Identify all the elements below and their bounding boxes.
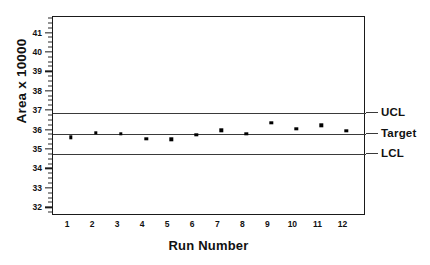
y-axis-tick-label: 33 bbox=[16, 183, 42, 193]
limit-label-ucl: UCL bbox=[381, 106, 405, 118]
x-axis-tick-label: 4 bbox=[130, 219, 154, 229]
y-axis-tick-mark bbox=[45, 129, 52, 130]
y-axis-tick-label: 32 bbox=[16, 202, 42, 212]
y-axis-tick-mark bbox=[45, 110, 52, 111]
data-point bbox=[144, 137, 147, 140]
data-point bbox=[220, 128, 223, 131]
y-axis-tick-label: 35 bbox=[16, 144, 42, 154]
data-point bbox=[295, 127, 298, 130]
limit-line-lcl bbox=[53, 154, 366, 155]
data-point bbox=[119, 132, 122, 135]
y-axis-tick-mark bbox=[45, 71, 52, 72]
x-axis-tick-label: 8 bbox=[230, 219, 254, 229]
x-axis-tick-label: 5 bbox=[155, 219, 179, 229]
data-point bbox=[320, 123, 323, 126]
limit-label-target: Target bbox=[381, 127, 417, 139]
y-axis-tick-label: 39 bbox=[16, 66, 42, 76]
limit-stub-ucl bbox=[366, 112, 378, 113]
data-point bbox=[69, 135, 72, 138]
y-axis-tick-mark bbox=[45, 51, 52, 52]
x-axis-tick-label: 9 bbox=[255, 219, 279, 229]
x-axis-tick-label: 1 bbox=[55, 219, 79, 229]
limit-line-ucl bbox=[53, 113, 366, 114]
y-axis-tick-label: 41 bbox=[16, 28, 42, 38]
y-axis-tick-mark bbox=[45, 168, 52, 169]
y-axis-tick-label: 38 bbox=[16, 86, 42, 96]
y-axis-tick-label: 34 bbox=[16, 163, 42, 173]
limit-label-lcl: LCL bbox=[381, 147, 404, 159]
y-axis-tick-mark bbox=[45, 32, 52, 33]
x-axis-tick-label: 6 bbox=[180, 219, 204, 229]
data-point bbox=[195, 133, 198, 136]
x-axis-tick-label: 10 bbox=[280, 219, 304, 229]
y-axis-tick-mark bbox=[45, 187, 52, 188]
y-axis-tick-label: 36 bbox=[16, 125, 42, 135]
y-axis-tick-mark bbox=[45, 90, 52, 91]
x-axis-tick-label: 11 bbox=[305, 219, 329, 229]
x-axis-title: Run Number bbox=[52, 238, 365, 253]
y-axis-tick-mark bbox=[45, 207, 52, 208]
chart-container: Area x 10000 Run Number 3233343536373839… bbox=[0, 0, 430, 265]
data-point bbox=[169, 138, 172, 141]
x-axis-tick-label: 2 bbox=[80, 219, 104, 229]
y-axis-tick-mark bbox=[45, 148, 52, 149]
limit-stub-target bbox=[366, 133, 378, 134]
x-axis-tick-label: 12 bbox=[330, 219, 354, 229]
y-axis-tick-label: 40 bbox=[16, 47, 42, 57]
x-axis-tick-label: 3 bbox=[105, 219, 129, 229]
data-point bbox=[345, 129, 348, 132]
x-axis-tick-label: 7 bbox=[205, 219, 229, 229]
data-point bbox=[245, 132, 248, 135]
plot-area bbox=[52, 16, 365, 215]
limit-line-target bbox=[53, 134, 366, 135]
y-axis-tick-label: 37 bbox=[16, 105, 42, 115]
limit-stub-lcl bbox=[366, 153, 378, 154]
data-point bbox=[270, 121, 273, 124]
data-point bbox=[94, 131, 97, 134]
